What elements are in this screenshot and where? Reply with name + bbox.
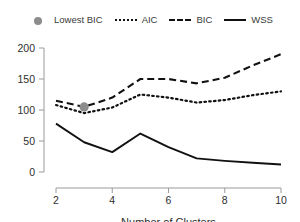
legend-label-wss: WSS xyxy=(251,15,273,25)
legend-item-wss: WSS xyxy=(224,15,273,25)
legend-label-aic: AIC xyxy=(142,15,158,25)
y-tick-label: 50 xyxy=(23,135,35,147)
legend-item-bic: BIC xyxy=(169,15,212,25)
x-tick-label: 8 xyxy=(222,194,228,206)
annotation-group xyxy=(80,102,89,111)
legend-item-lowest-bic: Lowest BIC xyxy=(27,15,103,25)
data-series-group xyxy=(56,54,281,164)
lowest-bic-marker xyxy=(80,102,89,111)
plot-svg: 050100150200 246810 Number of Clusters xyxy=(0,32,300,222)
x-tick-label: 2 xyxy=(53,194,59,206)
plot-area: 050100150200 246810 Number of Clusters xyxy=(0,32,300,222)
x-tick-marks xyxy=(56,188,281,193)
series-line-bic xyxy=(56,54,281,107)
series-line-aic xyxy=(56,91,281,113)
solid-line-icon xyxy=(224,15,246,25)
x-tick-labels: 246810 xyxy=(53,194,287,206)
chart-legend: Lowest BIC AIC BIC WSS xyxy=(0,8,300,32)
x-tick-label: 4 xyxy=(109,194,115,206)
dotted-line-icon xyxy=(115,15,137,25)
x-tick-label: 10 xyxy=(275,194,287,206)
y-axis: 050100150200 xyxy=(17,42,44,178)
x-axis-title: Number of Clusters xyxy=(121,216,216,222)
legend-item-aic: AIC xyxy=(115,15,158,25)
legend-label-bic: BIC xyxy=(196,15,212,25)
y-tick-label: 150 xyxy=(17,73,35,85)
y-tick-marks xyxy=(39,48,44,172)
x-axis: 246810 xyxy=(53,188,287,206)
chart-screenshot: Lowest BIC AIC BIC WSS xyxy=(0,0,300,222)
y-tick-label: 200 xyxy=(17,42,35,54)
series-line-wss xyxy=(56,124,281,165)
dashed-line-icon xyxy=(169,15,191,25)
y-tick-label: 0 xyxy=(29,166,35,178)
lowest-bic-marker-icon xyxy=(27,15,49,25)
x-tick-label: 6 xyxy=(166,194,172,206)
y-tick-label: 100 xyxy=(17,104,35,116)
y-tick-labels: 050100150200 xyxy=(17,42,35,178)
legend-label-lowest-bic: Lowest BIC xyxy=(54,15,103,25)
